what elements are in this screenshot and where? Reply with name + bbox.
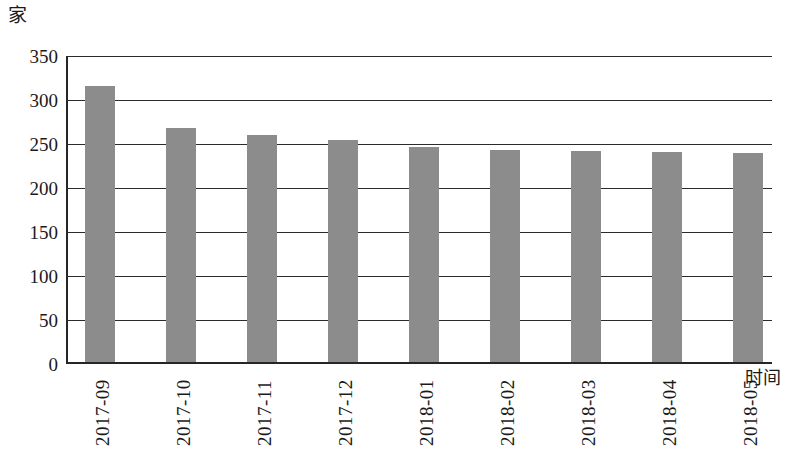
x-tick-label: 2018-01 [416, 379, 438, 446]
y-tick-label: 0 [12, 355, 58, 374]
x-axis-title: 时间 [745, 368, 781, 388]
y-axis-unit-label: 家 [8, 4, 27, 26]
x-tick-label: 2018-04 [659, 379, 681, 446]
bar [571, 151, 601, 362]
gridline-300 [66, 100, 772, 101]
x-tick-label: 2017-09 [92, 379, 114, 446]
x-tick-label: 2018-05 [740, 379, 762, 446]
bar [166, 128, 196, 362]
y-tick-label: 250 [12, 135, 58, 154]
bar [733, 153, 763, 362]
y-tick-label: 150 [12, 223, 58, 242]
y-axis-line [66, 56, 68, 364]
x-tick-label: 2017-10 [173, 379, 195, 446]
bar [652, 152, 682, 362]
x-tick-label: 2017-12 [335, 379, 357, 446]
bar-chart-figure: 家 350 300 250 200 150 100 50 0 2017-09 2… [0, 0, 794, 449]
y-tick-label: 350 [12, 47, 58, 66]
y-tick-label: 50 [12, 311, 58, 330]
bar [328, 140, 358, 362]
y-tick-label: 300 [12, 91, 58, 110]
x-tick-label: 2017-11 [254, 380, 276, 446]
x-tick-label: 2018-02 [497, 379, 519, 446]
plot-area [66, 56, 772, 364]
y-tick-label: 100 [12, 267, 58, 286]
bar [409, 147, 439, 362]
x-axis-tick-label-group: 2017-09 2017-10 2017-11 2017-12 2018-01 … [66, 368, 772, 448]
y-tick-label: 200 [12, 179, 58, 198]
bar [85, 86, 115, 362]
gridline-350 [66, 56, 772, 57]
bar [247, 135, 277, 362]
y-axis-tick-label-group: 350 300 250 200 150 100 50 0 [8, 56, 58, 364]
bar [490, 150, 520, 362]
x-axis-line [66, 362, 772, 364]
x-tick-label: 2018-03 [578, 379, 600, 446]
